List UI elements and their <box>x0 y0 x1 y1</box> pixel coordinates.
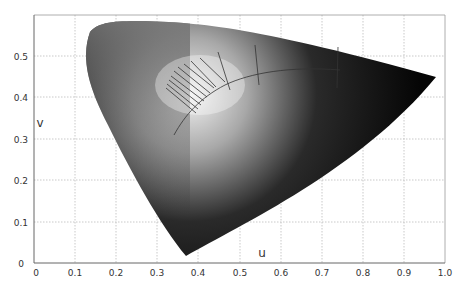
svg-text:0.2: 0.2 <box>109 268 123 278</box>
svg-text:0.2: 0.2 <box>14 176 28 186</box>
svg-text:0.8: 0.8 <box>356 268 371 278</box>
x-axis-ticks: 0 0.1 0.2 0.3 0.4 0.5 0.6 0.7 0.8 0.9 1.… <box>33 268 452 278</box>
svg-text:0.4: 0.4 <box>14 93 29 103</box>
svg-text:0.7: 0.7 <box>315 268 329 278</box>
svg-text:0.1: 0.1 <box>68 268 82 278</box>
x-axis-label: u <box>258 246 266 260</box>
chromaticity-chart: 0 0.1 0.2 0.3 0.4 0.5 0.6 0.7 0.8 0.9 1.… <box>0 0 461 289</box>
svg-text:0.5: 0.5 <box>233 268 247 278</box>
svg-text:1.0: 1.0 <box>438 268 453 278</box>
svg-text:0.3: 0.3 <box>14 135 28 145</box>
svg-text:0.3: 0.3 <box>150 268 164 278</box>
svg-text:0.5: 0.5 <box>14 52 28 62</box>
spectral-locus <box>70 15 436 256</box>
y-axis-label: v <box>36 116 43 130</box>
svg-text:0.9: 0.9 <box>397 268 412 278</box>
svg-text:0.4: 0.4 <box>191 268 206 278</box>
svg-text:0: 0 <box>18 259 24 269</box>
svg-text:0.6: 0.6 <box>274 268 289 278</box>
svg-text:0: 0 <box>33 268 39 278</box>
svg-text:0.1: 0.1 <box>14 218 28 228</box>
y-axis-ticks: 0 0.1 0.2 0.3 0.4 0.5 <box>14 52 29 269</box>
